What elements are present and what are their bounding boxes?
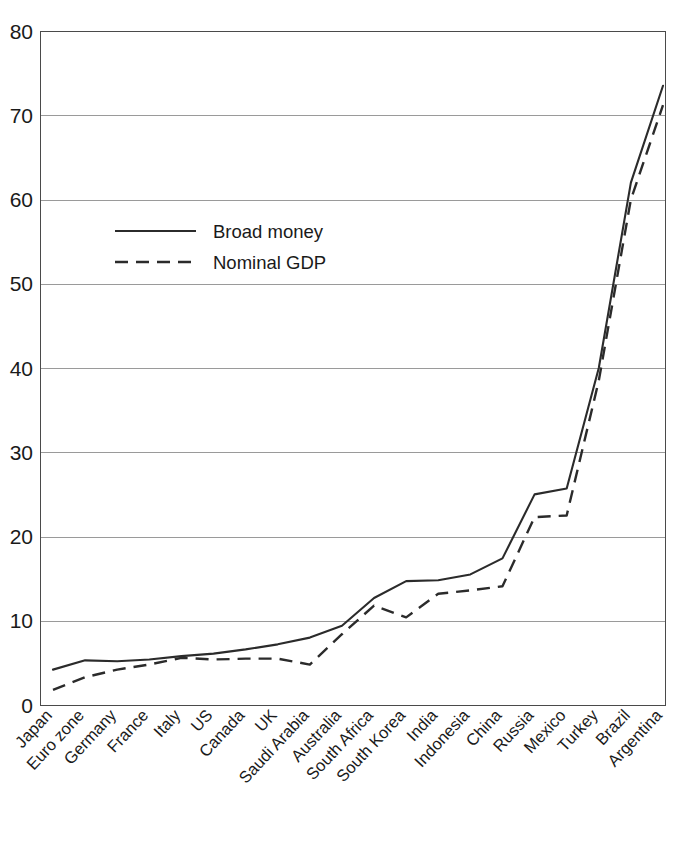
line-chart: 01020304050607080 Broad money Nominal GD… (0, 0, 684, 842)
y-axis-tick-labels: 01020304050607080 (10, 20, 33, 717)
y-axis-tick-label: 30 (10, 441, 33, 464)
legend-label-nominal-gdp: Nominal GDP (213, 252, 326, 273)
legend-label-broad-money: Broad money (213, 221, 324, 242)
y-axis-tick-label: 70 (10, 104, 33, 127)
chart-canvas: 01020304050607080 Broad money Nominal GD… (0, 0, 684, 842)
y-axis-tick-label: 80 (10, 20, 33, 43)
y-axis-tick-label: 40 (10, 357, 33, 380)
y-axis-tick-label: 10 (10, 609, 33, 632)
y-axis-tick-label: 50 (10, 272, 33, 295)
y-axis-tick-label: 20 (10, 525, 33, 548)
y-axis-tick-label: 60 (10, 188, 33, 211)
y-axis-tick-label: 0 (21, 694, 33, 717)
